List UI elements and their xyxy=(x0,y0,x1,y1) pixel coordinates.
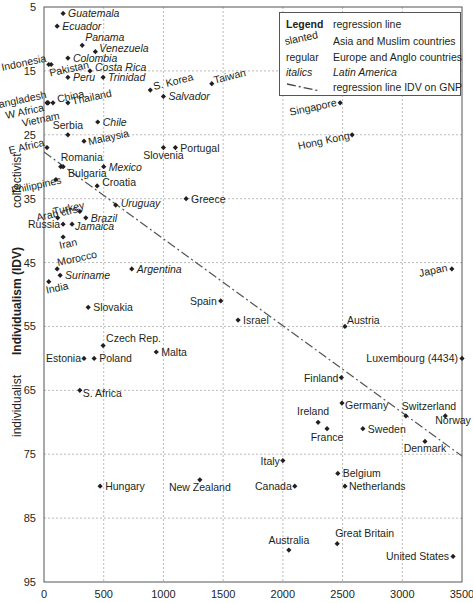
data-point: Jamaica xyxy=(69,220,114,232)
y-axis-label-collectivist: collectivist xyxy=(10,153,24,208)
point-label: Finland xyxy=(304,372,339,384)
y-axis-ticks: 5152535455565758595 xyxy=(24,1,36,588)
diamond-marker-icon xyxy=(280,458,285,463)
x-axis-ticks: 0500100015002000250030003500 xyxy=(41,588,473,600)
diamond-marker-icon xyxy=(235,317,240,322)
y-axis-label-individualist: individualist xyxy=(10,374,24,437)
legend-text-regular: Europe and Anglo countries xyxy=(333,50,462,64)
point-label: Chile xyxy=(103,116,127,128)
x-tick-label: 3000 xyxy=(390,588,414,600)
data-point: Guatemala xyxy=(61,7,120,19)
point-label: Croatia xyxy=(102,176,136,188)
data-point: Slovakia xyxy=(86,301,133,313)
y-tick-label: 75 xyxy=(24,448,36,460)
diamond-marker-icon xyxy=(315,420,320,425)
point-label: Bulgaria xyxy=(68,167,107,179)
point-label: Iran xyxy=(58,235,78,251)
data-point: Estonia xyxy=(46,352,87,364)
point-label: Great Britain xyxy=(335,527,394,539)
diamond-marker-icon xyxy=(98,484,103,489)
data-point: Hungary xyxy=(98,480,146,492)
data-point: Argentina xyxy=(129,263,182,275)
data-point: Chile xyxy=(95,116,127,128)
x-tick-label: 1500 xyxy=(211,588,235,600)
y-axis-title: Individualism (IDV) xyxy=(10,247,24,355)
point-label: Luxembourg (4434) xyxy=(366,352,458,364)
x-tick-label: 2000 xyxy=(271,588,295,600)
point-label: Israel xyxy=(243,314,269,326)
data-point: Australia xyxy=(268,534,309,553)
data-point: Belgium xyxy=(335,467,381,479)
diamond-marker-icon xyxy=(92,356,97,361)
data-point: Czech Rep. xyxy=(101,332,161,349)
point-label: Japan xyxy=(418,261,449,279)
point-label: Malaysia xyxy=(87,127,130,147)
diamond-marker-icon xyxy=(449,266,454,271)
diamond-marker-icon xyxy=(65,75,70,80)
diamond-marker-icon xyxy=(69,222,74,227)
point-label: Uruguay xyxy=(121,197,161,209)
data-point: Mexico xyxy=(101,161,142,173)
data-point: S. Korea xyxy=(148,70,195,92)
y-tick-label: 85 xyxy=(24,512,36,524)
diamond-marker-icon xyxy=(65,132,70,137)
point-label: Malta xyxy=(161,346,187,358)
point-label: Ireland xyxy=(297,405,329,417)
data-point: Trinidad xyxy=(101,71,147,83)
x-tick-label: 0 xyxy=(41,588,47,600)
data-point: Norway xyxy=(435,413,471,426)
point-label: Morocco xyxy=(56,248,98,268)
diamond-marker-icon xyxy=(286,547,291,552)
data-point: Germany xyxy=(339,399,389,411)
data-point: Sweden xyxy=(360,423,406,435)
point-label: Mexico xyxy=(109,161,142,173)
diamond-marker-icon xyxy=(148,87,153,92)
dash-dot-line-icon xyxy=(286,81,322,93)
point-label: New Zealand xyxy=(169,481,231,493)
diamond-marker-icon xyxy=(58,273,63,278)
point-label: Guatemala xyxy=(68,7,120,19)
point-label: Russia xyxy=(28,218,60,230)
data-point: New Zealand xyxy=(169,477,231,493)
data-point: S. Africa xyxy=(77,387,122,399)
point-label: France xyxy=(311,431,344,443)
x-tick-label: 3500 xyxy=(450,588,473,600)
point-label: Australia xyxy=(268,534,309,546)
point-label: Spain xyxy=(190,295,217,307)
point-label: Serbia xyxy=(53,119,84,131)
data-point: Finland xyxy=(304,372,344,384)
diamond-marker-icon xyxy=(335,541,340,546)
diamond-marker-icon xyxy=(154,349,159,354)
point-label: Canada xyxy=(255,480,292,492)
point-label: Netherlands xyxy=(349,480,406,492)
diamond-marker-icon xyxy=(161,94,166,99)
point-label: Austria xyxy=(347,314,380,326)
point-label: Jamaica xyxy=(74,220,114,232)
diamond-marker-icon xyxy=(129,266,134,271)
data-point: Canada xyxy=(255,480,297,492)
diamond-marker-icon xyxy=(101,75,106,80)
point-label: Germany xyxy=(345,399,389,411)
y-tick-label: 5 xyxy=(30,1,36,13)
data-point: India xyxy=(45,279,70,296)
data-point: Russia xyxy=(28,218,66,230)
diamond-marker-icon xyxy=(218,298,223,303)
point-label: United States xyxy=(386,550,449,562)
data-point: Malaysia xyxy=(81,127,130,147)
point-label: Greece xyxy=(191,193,226,205)
data-point: France xyxy=(311,426,344,443)
point-label: Slovakia xyxy=(93,301,133,313)
y-tick-label: 55 xyxy=(24,320,36,332)
point-label: Hungary xyxy=(105,480,145,492)
data-point: Uruguay xyxy=(113,197,161,209)
diamond-marker-icon xyxy=(335,471,340,476)
diamond-marker-icon xyxy=(360,426,365,431)
data-point: Great Britain xyxy=(335,527,395,547)
diamond-marker-icon xyxy=(61,222,66,227)
data-point: Morocco xyxy=(55,248,99,272)
diamond-marker-icon xyxy=(450,554,455,559)
data-point: Portugal xyxy=(173,142,220,154)
point-label: Slovenia xyxy=(143,149,183,161)
diamond-marker-icon xyxy=(61,11,66,16)
diamond-marker-icon xyxy=(184,196,189,201)
